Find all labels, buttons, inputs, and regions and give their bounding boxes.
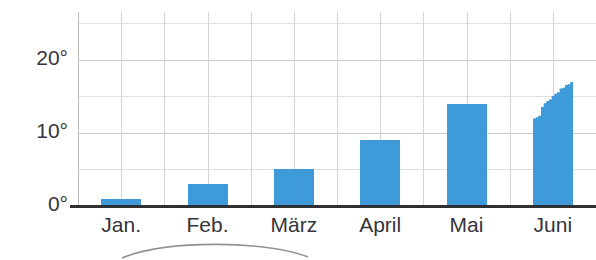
x-tick-label-juni: Juni bbox=[510, 213, 596, 237]
x-tick-label-april: April bbox=[337, 213, 423, 237]
gridline-x-1 bbox=[121, 12, 122, 206]
x-tick-label-märz: März bbox=[251, 213, 337, 237]
bar-mai bbox=[447, 104, 487, 206]
bar-april bbox=[360, 140, 400, 206]
y-tick-label-10: 10° bbox=[0, 119, 68, 143]
bar-juni bbox=[533, 82, 573, 206]
temperature-bar-chart: 0°10°20° Jan.Feb.MärzAprilMaiJuni bbox=[0, 0, 596, 260]
x-axis-line bbox=[70, 205, 596, 208]
gridline-x-2 bbox=[164, 12, 165, 206]
y-tick-label-0: 0° bbox=[0, 192, 68, 216]
bar-märz bbox=[274, 169, 314, 206]
gridline-x-4 bbox=[251, 12, 252, 206]
gridline-x-3 bbox=[208, 12, 209, 206]
gridline-x-6 bbox=[337, 12, 338, 206]
x-tick-label-feb: Feb. bbox=[164, 213, 250, 237]
y-tick-label-20: 20° bbox=[0, 46, 68, 70]
y-axis-line bbox=[78, 12, 79, 206]
page-curl-artifact bbox=[120, 236, 310, 260]
x-tick-label-mai: Mai bbox=[423, 213, 509, 237]
bar-feb bbox=[188, 184, 228, 206]
gridline-x-8 bbox=[423, 12, 424, 206]
plot-area bbox=[78, 12, 596, 206]
gridline-x-10 bbox=[510, 12, 511, 206]
x-tick-label-jan: Jan. bbox=[78, 213, 164, 237]
